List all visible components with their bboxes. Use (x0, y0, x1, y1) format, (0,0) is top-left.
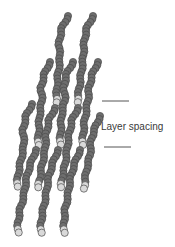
chain-bead (38, 229, 45, 236)
layer-spacing-label: Layer spacing (101, 121, 163, 132)
chain-bead (14, 183, 21, 190)
chain-bead (35, 184, 42, 191)
chain-bead (15, 229, 22, 236)
chain-bead (80, 185, 87, 192)
chain-bead (58, 184, 65, 191)
layer-spacing-diagram: Layer spacing (0, 0, 175, 247)
chain-bead (61, 229, 68, 236)
molecular-chains (13, 12, 103, 236)
